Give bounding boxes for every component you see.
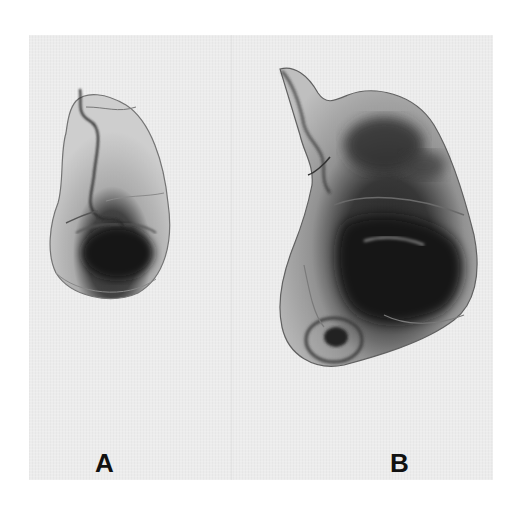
figure-plate (29, 35, 493, 480)
panel-divider (231, 35, 232, 480)
specimen-b (274, 65, 484, 375)
panel-label-a: A (95, 450, 114, 476)
specimen-a (46, 83, 181, 308)
panel-label-b: B (390, 450, 409, 476)
